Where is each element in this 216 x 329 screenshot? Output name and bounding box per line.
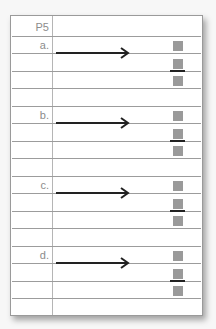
answer-box[interactable] [173, 111, 183, 121]
problem-label: d. [11, 249, 49, 261]
page-header: P5 [11, 21, 49, 33]
numerator-box[interactable] [173, 199, 183, 209]
numerator-box[interactable] [173, 129, 183, 139]
denominator-box[interactable] [173, 76, 183, 86]
denominator-box[interactable] [173, 286, 183, 296]
ruled-line [12, 176, 201, 177]
problem-label: c. [11, 179, 49, 191]
problem-label: a. [11, 39, 49, 51]
ruled-line [12, 158, 201, 159]
ruled-line [12, 36, 201, 37]
arrow-right-icon [56, 117, 131, 129]
fraction-bar [170, 280, 185, 282]
fraction-bar [170, 210, 185, 212]
numerator-box[interactable] [173, 59, 183, 69]
ruled-line [12, 88, 201, 89]
arrow-right-icon [56, 47, 131, 59]
denominator-box[interactable] [173, 216, 183, 226]
arrow-right-icon [56, 187, 131, 199]
problem-label: b. [11, 109, 49, 121]
answer-box[interactable] [173, 251, 183, 261]
ruled-line [12, 298, 201, 299]
worksheet-paper: P5 a. b. c. d. [10, 15, 203, 316]
ruled-line [12, 106, 201, 107]
ruled-line [12, 246, 201, 247]
denominator-box[interactable] [173, 146, 183, 156]
arrow-right-icon [56, 257, 131, 269]
numerator-box[interactable] [173, 269, 183, 279]
fraction-bar [170, 140, 185, 142]
ruled-line [12, 228, 201, 229]
answer-box[interactable] [173, 181, 183, 191]
fraction-bar [170, 70, 185, 72]
answer-box[interactable] [173, 41, 183, 51]
margin-line [52, 16, 53, 315]
